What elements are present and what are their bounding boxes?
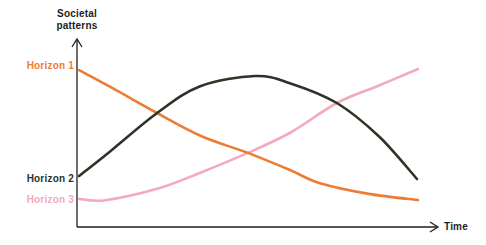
x-axis-label: Time	[444, 221, 468, 233]
label-horizon-3: Horizon 3	[0, 194, 74, 206]
chart-svg	[0, 0, 486, 245]
label-horizon-2: Horizon 2	[0, 173, 74, 185]
three-horizons-chart: Societal patterns Horizon 1 Horizon 2 Ho…	[0, 0, 486, 245]
y-axis-label: Societal patterns	[32, 8, 122, 32]
label-horizon-1: Horizon 1	[0, 60, 74, 72]
